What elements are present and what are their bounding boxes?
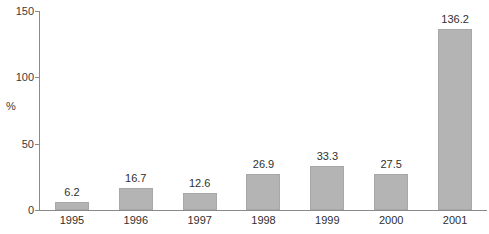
- bar-value-label: 136.2: [441, 14, 469, 25]
- x-axis-tick-label: 1996: [124, 214, 148, 226]
- bar-chart: % 050100150 6.216.712.626.933.327.5136.2…: [0, 0, 489, 234]
- y-axis-tick-label: 100: [2, 72, 34, 83]
- bar: [246, 174, 280, 210]
- bar-value-label: 26.9: [253, 159, 274, 170]
- bar-group: 6.2: [40, 11, 104, 210]
- x-axis-tick-label: 1998: [251, 214, 275, 226]
- bar-group: 33.3: [295, 11, 359, 210]
- x-axis-tick-label: 1995: [60, 214, 84, 226]
- bar-value-label: 33.3: [317, 151, 338, 162]
- bar: [183, 193, 217, 210]
- bar-group: 12.6: [168, 11, 232, 210]
- x-axis-tick-label: 1997: [187, 214, 211, 226]
- bar: [374, 174, 408, 210]
- plot-area: 6.216.712.626.933.327.5136.2: [40, 11, 487, 210]
- x-axis-tick-label: 2000: [379, 214, 403, 226]
- bar: [55, 202, 89, 210]
- x-axis-tick-label: 2001: [443, 214, 467, 226]
- bar-value-label: 27.5: [380, 159, 401, 170]
- bar-group: 27.5: [359, 11, 423, 210]
- bar-value-label: 12.6: [189, 178, 210, 189]
- x-axis-line: [39, 210, 487, 211]
- bar-group: 26.9: [232, 11, 296, 210]
- bar-group: 16.7: [104, 11, 168, 210]
- bar: [119, 188, 153, 210]
- y-axis-tick-label: 150: [2, 6, 34, 17]
- bar-value-label: 16.7: [125, 173, 146, 184]
- bar-group: 136.2: [423, 11, 487, 210]
- y-axis-ticks: 050100150: [0, 0, 34, 234]
- bar: [438, 29, 472, 210]
- bar-value-label: 6.2: [64, 187, 79, 198]
- x-axis-tick-label: 1999: [315, 214, 339, 226]
- y-axis-tick-label: 50: [2, 139, 34, 150]
- y-axis-tick-label: 0: [2, 205, 34, 216]
- bar: [310, 166, 344, 210]
